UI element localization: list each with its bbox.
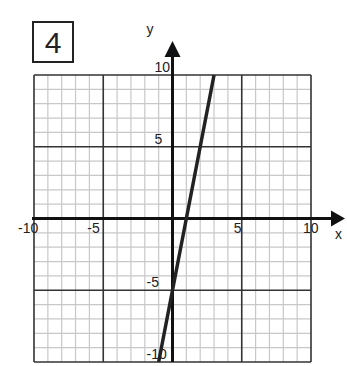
y-tick-label: 5 [155,131,163,147]
x-tick-label: 10 [303,220,319,236]
x-tick-label: -10 [18,220,38,236]
y-axis-label: y [147,21,154,37]
y-tick-label: -5 [147,274,160,290]
x-tick-label: -5 [87,220,100,236]
x-axis-label: x [335,226,342,242]
x-tick-label: 5 [234,220,242,236]
y-axis-arrow-icon [165,41,181,57]
y-tick-label: -10 [147,346,167,362]
x-axis-arrow-icon [331,211,345,227]
coordinate-plane: xy-10-5510105-5-10 [0,0,347,366]
y-tick-label: 10 [155,59,171,75]
